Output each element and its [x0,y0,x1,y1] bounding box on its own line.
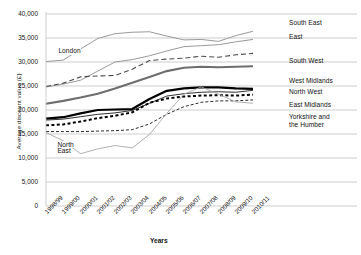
legend-item-label: South West [289,57,323,65]
y-axis-tick: 15,000 [4,130,38,137]
y-axis-tick: 40,000 [4,10,38,17]
legend-item-label: South East [289,19,322,27]
legend-item-label: West Midlands [289,77,333,85]
legend-item-label: North West [289,88,322,96]
inline-series-label: London [58,47,80,55]
legend-item-label: Yorkshire and [289,113,330,121]
y-axis-tick: 25,000 [4,82,38,89]
inline-series-label: East [57,147,70,155]
y-axis-tick: 5,000 [4,178,38,185]
legend-item-label: East [289,33,302,41]
series-line [46,100,253,132]
y-axis-tick: 20,000 [4,106,38,113]
line-chart: Average discount value (£) 40,00035,0003… [0,0,361,255]
series-line [46,87,253,154]
y-axis-tick: 35,000 [4,34,38,41]
legend-item-label: the Humber [289,121,324,129]
y-axis-tick: 0 [4,202,38,209]
y-axis-tick: 30,000 [4,58,38,65]
y-axis-tick: 10,000 [4,154,38,161]
x-axis-title: Years [150,237,168,244]
legend-item-label: East Midlands [289,101,331,109]
